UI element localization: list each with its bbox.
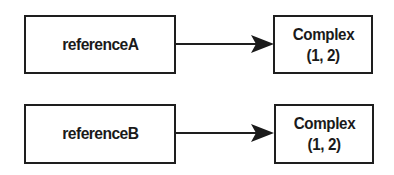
reference-a-label: referenceA xyxy=(62,35,138,55)
arrow-a xyxy=(175,35,274,53)
object-a-value: (1, 2) xyxy=(306,45,339,66)
arrow-b xyxy=(175,124,274,142)
object-b-value: (1, 2) xyxy=(307,134,340,155)
object-b-title: Complex xyxy=(293,113,355,134)
object-a-title: Complex xyxy=(292,24,354,45)
reference-b-label: referenceB xyxy=(62,124,138,144)
reference-a-box: referenceA xyxy=(24,15,176,74)
reference-b-box: referenceB xyxy=(24,104,176,164)
object-a-box: Complex (1, 2) xyxy=(273,15,373,74)
object-b-box: Complex (1, 2) xyxy=(274,104,374,164)
